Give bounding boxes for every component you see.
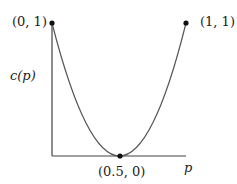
curve [52,23,186,156]
point-0-1 [49,20,54,25]
label-point-left: (0, 1) [12,14,47,29]
y-axis-label: c(p) [10,68,36,83]
x-axis-label: p [184,160,192,175]
point-1-1 [183,20,188,25]
label-point-right: (1, 1) [200,14,235,29]
label-point-min: (0.5, 0) [98,164,145,179]
point-min [117,153,122,158]
